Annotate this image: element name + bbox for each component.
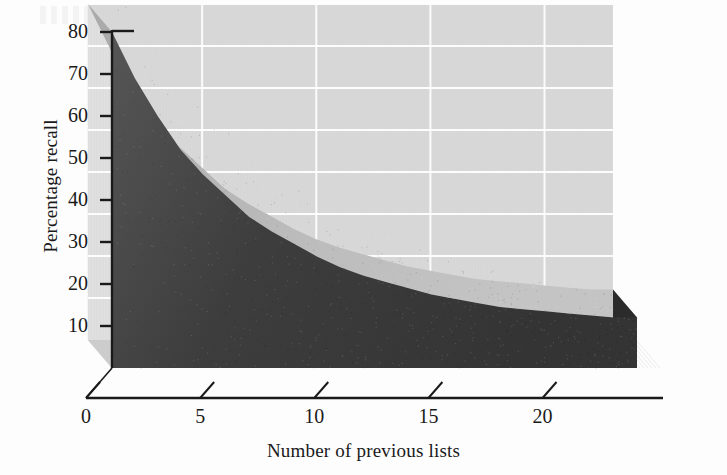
y-tick-label-20: 20 (42, 273, 88, 293)
x-axis-title: Number of previous lists (0, 440, 727, 462)
x-tick-label-20: 20 (520, 406, 566, 426)
y-tick-label-10: 10 (42, 315, 88, 335)
y-tick-label-40: 40 (42, 189, 88, 209)
chart-figure: Percentage recall Number of previous lis… (0, 0, 727, 475)
x-tick-label-0: 0 (63, 406, 109, 426)
y-tick-label-30: 30 (42, 231, 88, 251)
x-tick-label-15: 15 (405, 406, 451, 426)
x-tick-label-10: 10 (291, 406, 337, 426)
x-axis-ticks (86, 382, 557, 398)
y-tick-label-80: 80 (42, 21, 88, 41)
y-tick-label-50: 50 (42, 147, 88, 167)
y-tick-label-70: 70 (42, 63, 88, 83)
area-chart-canvas (0, 0, 727, 475)
y-tick-label-60: 60 (42, 105, 88, 125)
x-tick-label-5: 5 (177, 406, 223, 426)
